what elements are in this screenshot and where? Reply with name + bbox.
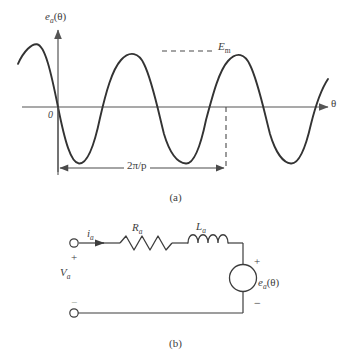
inductor-symbol — [188, 235, 228, 243]
emf-waveform-curve — [18, 44, 328, 163]
input-minus-sign: − — [71, 297, 77, 308]
period-label: 2π/p — [124, 160, 150, 171]
input-terminal-negative — [70, 309, 78, 317]
inductor-label: La — [196, 221, 206, 235]
back-emf-source-symbol — [230, 265, 257, 292]
input-plus-sign: + — [71, 252, 77, 263]
amplitude-label: Em — [218, 41, 231, 55]
resistor-label: Ra — [132, 222, 142, 236]
resistor-symbol — [120, 236, 172, 250]
figure-container: ea(θ) θ 0 Em 2π/p ia Ra La Va ea(θ) + − … — [0, 0, 351, 358]
origin-label: 0 — [48, 110, 53, 120]
source-plus-sign: + — [254, 256, 260, 267]
caption-panel-a: (a) — [0, 191, 351, 203]
current-label: ia — [87, 228, 94, 242]
input-terminal-positive — [70, 239, 78, 247]
x-axis-label: θ — [331, 98, 336, 109]
back-emf-label: ea(θ) — [258, 277, 279, 291]
supply-voltage-label: Va — [60, 267, 70, 281]
y-axis-label: ea(θ) — [45, 11, 66, 25]
caption-panel-b: (b) — [0, 337, 351, 349]
source-minus-sign: − — [254, 297, 261, 309]
figure-graphics — [0, 0, 351, 358]
